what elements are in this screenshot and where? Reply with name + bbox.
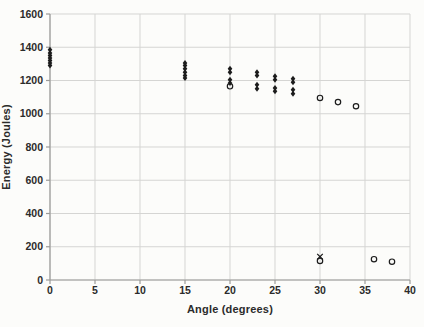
x-tick-label: 30 (314, 284, 326, 296)
chart-background (0, 0, 424, 327)
y-axis-title: Energy (Joules) (0, 81, 12, 213)
x-tick-label: 25 (269, 284, 281, 296)
y-tick-label: 1000 (20, 107, 44, 119)
x-tick-label: 40 (404, 284, 416, 296)
x-tick-label: 5 (92, 284, 98, 296)
y-tick-label: 0 (37, 274, 43, 286)
y-tick-label: 600 (25, 174, 43, 186)
y-tick-label: 200 (25, 240, 43, 252)
chart-canvas: 0510152025303540020040060080010001200140… (0, 0, 424, 327)
x-tick-label: 35 (359, 284, 371, 296)
x-tick-label: 0 (47, 284, 53, 296)
x-tick-label: 20 (224, 284, 236, 296)
y-tick-label: 1400 (20, 41, 44, 53)
y-tick-label: 400 (25, 207, 43, 219)
scatter-chart-figure: 0510152025303540020040060080010001200140… (0, 0, 424, 327)
x-axis-title: Angle (degrees) (50, 303, 410, 315)
y-tick-label: 1600 (20, 8, 44, 20)
y-tick-label: 1200 (20, 74, 44, 86)
y-tick-label: 800 (25, 141, 43, 153)
x-tick-label: 15 (179, 284, 191, 296)
x-tick-label: 10 (134, 284, 146, 296)
